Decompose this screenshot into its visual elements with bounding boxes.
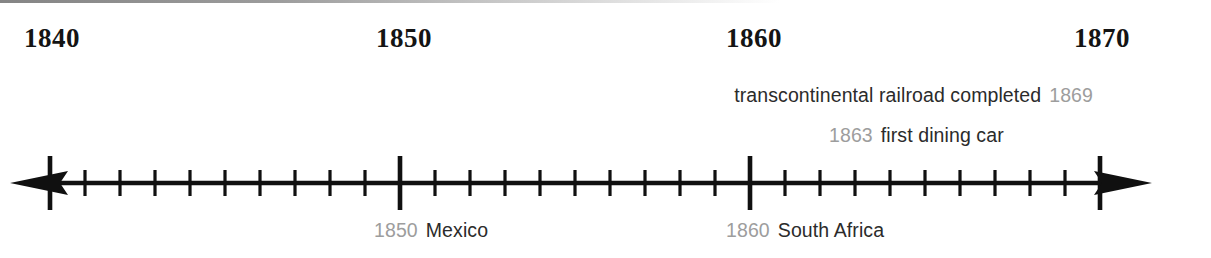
timeline-figure: 1840 1850 1860 1870 transcontinental rai… xyxy=(0,0,1211,258)
axis-arrowhead-right xyxy=(1094,171,1152,195)
event-label-transcontinental-railroad: transcontinental railroad completed xyxy=(734,84,1041,106)
scan-edge-artifact xyxy=(0,0,780,3)
decade-label-1860: 1860 xyxy=(726,23,782,54)
timeline-axis xyxy=(0,0,1211,258)
event-above-transcontinental-railroad: transcontinental railroad completed1869 xyxy=(734,84,1093,107)
event-year-1869: 1869 xyxy=(1049,84,1093,106)
decade-label-1840: 1840 xyxy=(24,23,80,54)
event-above-first-dining-car: 1863first dining car xyxy=(829,124,1004,147)
event-label-first-dining-car: first dining car xyxy=(881,124,1004,146)
decade-label-1850: 1850 xyxy=(376,23,432,54)
event-year-1863: 1863 xyxy=(829,124,873,146)
event-below-south-africa: 1860South Africa xyxy=(726,219,884,242)
event-year-1850: 1850 xyxy=(374,219,418,241)
timeline-axis-svg xyxy=(0,0,1211,258)
axis-arrowhead-left xyxy=(10,171,68,195)
event-below-mexico: 1850Mexico xyxy=(374,219,488,242)
decade-label-1870: 1870 xyxy=(1074,23,1130,54)
event-year-1860: 1860 xyxy=(726,219,770,241)
event-label-south-africa: South Africa xyxy=(778,219,884,241)
event-label-mexico: Mexico xyxy=(426,219,488,241)
